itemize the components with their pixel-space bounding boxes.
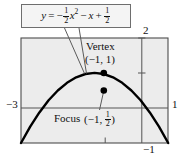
equation-term2-sign: −	[80, 9, 86, 21]
equation-lhs: y	[41, 9, 46, 21]
x-axis-max-label: 1	[172, 99, 178, 110]
vertex-marker	[101, 70, 108, 77]
y-axis-max-label: 2	[143, 25, 149, 36]
parabola-curve	[21, 73, 168, 143]
focus-leader-line	[100, 92, 104, 110]
equation-term3-sign: +	[95, 9, 101, 21]
equation-text: y=−12x2−x+12	[41, 7, 110, 25]
equation-term1-sign: −	[56, 9, 62, 21]
equation-equals: =	[48, 9, 54, 21]
vertex-label: Vertex	[86, 41, 115, 53]
equation-term1-denominator: 2	[63, 16, 69, 25]
equation-term1-fraction: 12	[63, 7, 69, 25]
vertex-coordinates: (−1, 1)	[85, 54, 115, 66]
focus-y-numerator: 1	[105, 111, 111, 119]
parabola-figure: y=−12x2−x+12 Vertex (−1, 1) Focus (−1,12…	[0, 0, 192, 160]
focus-x-value: −1,	[88, 114, 102, 126]
focus-coordinates: (−1,12)	[84, 111, 115, 129]
focus-marker	[101, 87, 108, 94]
equation-term1-exponent: 2	[75, 7, 79, 16]
equation-term3-numerator: 1	[104, 7, 110, 15]
x-axis-min-label: −3	[6, 99, 18, 110]
focus-y-fraction: 12	[105, 111, 111, 129]
callout-leader-line-left	[65, 28, 85, 74]
focus-paren-close: )	[111, 114, 115, 126]
equation-term3-fraction: 12	[104, 7, 110, 25]
focus-label: Focus	[54, 113, 80, 125]
y-axis-min-label: −1	[143, 144, 155, 155]
equation-term3-denominator: 2	[104, 16, 110, 25]
equation-term1-numerator: 1	[63, 7, 69, 15]
equation-callout: y=−12x2−x+12	[21, 4, 131, 28]
focus-y-denominator: 2	[105, 119, 111, 128]
equation-term2-variable: x	[89, 9, 94, 21]
